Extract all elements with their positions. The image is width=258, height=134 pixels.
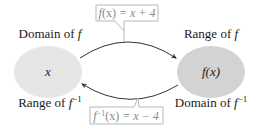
function-inverse-diagram: Domain of f Range of f Range of f−1 Doma… (0, 0, 258, 134)
label-prefix: Domain of (19, 26, 78, 41)
label-func: f (234, 26, 238, 41)
domain-of-f-label: Domain of f (19, 27, 82, 41)
inverse-arrow (82, 84, 178, 99)
label-prefix: Domain of (175, 95, 234, 110)
inverse-formula: f−1(x) = x − 4 (93, 109, 158, 123)
label-func: f (78, 26, 82, 41)
label-prefix: Range of (184, 26, 235, 41)
formula-arg: (x) (105, 109, 119, 123)
label-superscript: −1 (72, 94, 82, 104)
range-of-f-inverse-label: Range of f−1 (18, 96, 82, 110)
range-of-f-label: Range of f (184, 27, 238, 41)
formula-arg: (x) (102, 6, 116, 20)
range-element-fx: f(x) (202, 64, 220, 80)
domain-of-f-inverse-label: Domain of f−1 (175, 96, 247, 110)
label-prefix: Range of (18, 95, 69, 110)
label-superscript: −1 (238, 94, 248, 104)
formula-superscript: −1 (97, 109, 106, 118)
forward-formula: f(x) = x + 4 (99, 6, 156, 20)
formula-rhs: = x + 4 (116, 6, 156, 20)
forward-arrow (80, 42, 176, 58)
domain-element-x: x (45, 64, 51, 80)
formula-rhs: = x − 4 (119, 109, 159, 123)
